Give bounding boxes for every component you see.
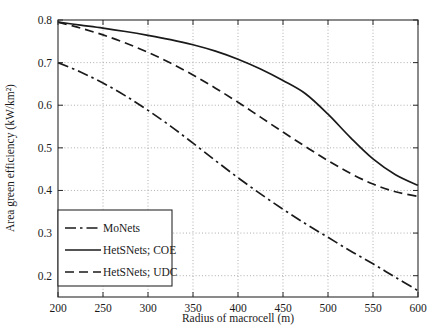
x-tick-label: 200 [49,302,67,314]
y-tick-label: 0.5 [38,142,53,154]
y-tick-label: 0.3 [38,227,53,239]
x-tick-label: 600 [409,302,427,314]
y-tick-label: 0.4 [38,184,53,196]
y-axis-title: Area green efficiency (kW/km²) [4,84,17,232]
area-green-efficiency-line-chart: 200250300350400450500550600 0.20.30.40.5… [0,0,440,330]
chart-figure: 200250300350400450500550600 0.20.30.40.5… [0,0,440,330]
y-tick-label: 0.6 [38,99,53,111]
legend-label: HetSNets; COE [103,244,176,256]
x-tick-label: 500 [319,302,337,314]
chart-legend[interactable]: MoNetsHetSNets; COEHetSNets; UDC [58,210,178,286]
x-tick-label: 250 [94,302,112,314]
y-tick-label: 0.7 [38,57,53,69]
x-tick-label: 300 [139,302,157,314]
legend-label: HetSNets; UDC [103,266,178,278]
y-tick-label: 0.2 [38,270,53,282]
x-axis-title: Radius of macrocell (m) [182,312,294,325]
y-tick-label: 0.8 [38,14,53,26]
legend-label: MoNets [103,222,141,234]
x-tick-label: 550 [364,302,382,314]
